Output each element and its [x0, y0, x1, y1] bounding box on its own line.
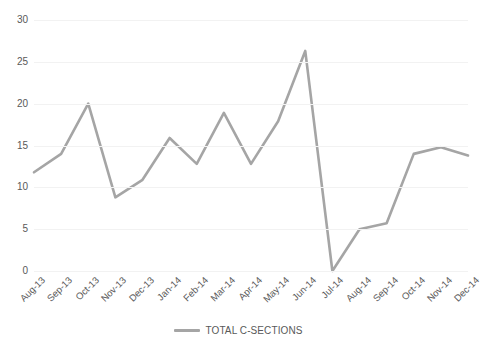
gridline: [34, 146, 468, 147]
y-axis: 302520151050: [0, 20, 30, 271]
gridline: [34, 104, 468, 105]
gridline: [34, 187, 468, 188]
y-tick-label: 0: [0, 266, 28, 276]
legend-line-swatch: [174, 329, 200, 332]
x-axis: Aug-13Sep-13Oct-13Nov-13Dec-13Jan-14Feb-…: [34, 271, 468, 321]
y-tick-label: 10: [0, 182, 28, 192]
chart-title: [0, 0, 476, 1]
legend-item-label: TOTAL C-SECTIONS: [206, 325, 303, 336]
y-tick-label: 20: [0, 99, 28, 109]
gridline: [34, 229, 468, 230]
y-tick-label: 30: [0, 15, 28, 25]
gridline: [34, 20, 468, 21]
plot-area: [34, 20, 468, 271]
y-tick-label: 25: [0, 57, 28, 67]
chart-legend: TOTAL C-SECTIONS: [0, 325, 476, 336]
y-tick-label: 5: [0, 224, 28, 234]
gridline: [34, 62, 468, 63]
y-tick-label: 15: [0, 141, 28, 151]
series-polyline: [34, 51, 468, 271]
